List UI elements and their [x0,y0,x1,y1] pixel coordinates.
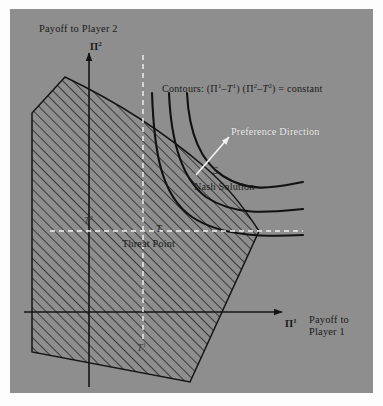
threat-y-tick-sup: 2 [90,214,94,221]
contours-pi2: Π [246,83,254,94]
x-axis-title: Payoff toPlayer 1 [309,314,373,337]
solution-point-label: S [213,166,218,177]
contours-mid: ) ( [236,83,246,94]
contours-suffix: ) = constant [272,83,323,94]
x-axis-title-line1: Payoff to [309,314,349,325]
nash-solution-label: Nash Solution [194,181,255,192]
contours-prefix: Contours: ( [162,83,210,94]
preference-direction-label: Preference Direction [231,126,320,137]
contours-annotation: Contours: (Π1–T1) (Π2–T2) = constant [162,83,323,94]
feasible-set-region [32,77,259,382]
y-axis-title: Payoff to Player 2 [39,23,118,35]
threat-x-tick-label: T1 [137,342,146,353]
threat-x-tick-sup: 1 [143,341,147,348]
x-axis-symbol: Π1 [285,318,297,330]
threat-point-marker-label: T [156,223,162,234]
x-axis-title-line2: Player 1 [309,326,345,337]
plot-area: Payoff to Player 2 Π2 Π1 Payoff toPlayer… [10,9,373,393]
threat-y-tick-label: T2 [84,215,93,226]
y-axis-symbol: Π2 [90,41,102,53]
contours-pi1: Π [210,83,218,94]
threat-point-label: Threat Point [122,238,175,249]
figure-root: Payoff to Player 2 Π2 Π1 Payoff toPlayer… [0,0,383,406]
y-axis-symbol-sup: 2 [98,40,102,47]
x-axis-symbol-sup: 1 [293,317,297,324]
